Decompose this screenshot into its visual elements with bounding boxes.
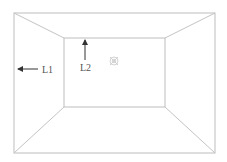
corner-line-top-right [165, 13, 215, 38]
room-perspective-diagram: L1 L2 [0, 0, 227, 162]
corner-line-bottom-right [165, 107, 215, 153]
crosshair-target-icon [110, 57, 118, 65]
corner-line-bottom-left [14, 107, 64, 153]
l2-label: L2 [80, 62, 91, 73]
corner-line-top-left [14, 13, 64, 38]
outer-wall-rect [14, 13, 215, 153]
l1-label: L1 [42, 64, 53, 75]
diagram-canvas: L1 L2 [0, 0, 227, 162]
